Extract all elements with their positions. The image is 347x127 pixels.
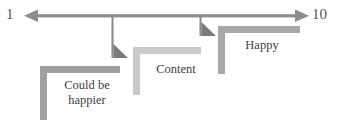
scale-axis-arrow: [24, 10, 309, 23]
scale-max-label: 10: [312, 7, 327, 22]
arrowhead-left-icon: [24, 10, 38, 23]
bracket-label-happy: Happy: [231, 38, 293, 53]
bracket-top-bar: [218, 26, 300, 33]
bracket-left-bar: [133, 47, 140, 95]
bracket-left-bar: [218, 26, 225, 74]
pointer-triangle-icon: [114, 44, 129, 58]
scale-min-label: 1: [6, 7, 14, 22]
arrowhead-right-icon: [295, 10, 309, 23]
axis-line: [28, 14, 305, 17]
bracket-top-bar: [133, 47, 201, 54]
bracket-label-content: Content: [146, 62, 206, 77]
pointer-content: [200, 16, 217, 36]
pointer-triangle-icon: [202, 22, 217, 36]
bracket-label-could-be-happier: Could be happier: [53, 78, 121, 108]
bracket-top-bar: [40, 66, 120, 73]
bracket-left-bar: [40, 66, 47, 120]
pointer-could-be-happier: [112, 16, 129, 58]
pointer-stem: [112, 16, 114, 58]
pointer-stem: [200, 16, 202, 36]
happiness-scale-diagram: 1 10 Could be happier Content Happy: [0, 0, 347, 127]
